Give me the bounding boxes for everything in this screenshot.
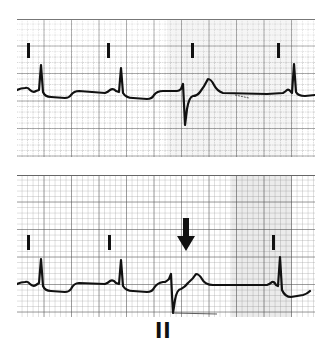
ecg-strip-bottom-graphic bbox=[17, 175, 315, 317]
ecg-strip-bottom bbox=[17, 175, 315, 317]
lead-label: II bbox=[155, 320, 172, 342]
ecg-strip-top bbox=[17, 19, 315, 157]
ecg-strip-top-graphic bbox=[17, 19, 315, 157]
